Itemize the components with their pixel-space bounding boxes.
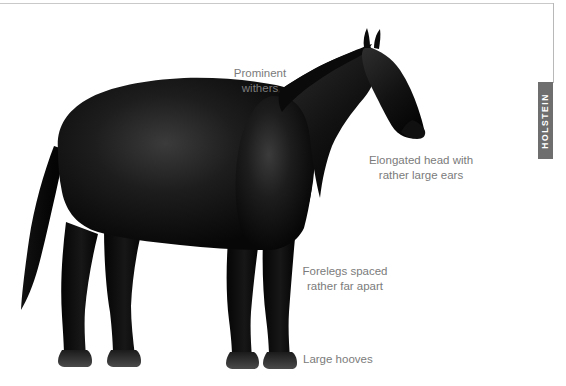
horse-ear-far bbox=[364, 28, 370, 48]
page-canvas: Prominent withers Elongated head with ra… bbox=[0, 0, 566, 386]
callout-hooves-line1: Large hooves bbox=[303, 352, 373, 367]
horse-foreleg-far bbox=[227, 240, 259, 358]
section-tab-label: HOLSTEIN bbox=[538, 93, 553, 149]
section-tab-holstein[interactable]: HOLSTEIN bbox=[538, 82, 553, 159]
callout-forelegs: Forelegs spaced rather far apart bbox=[290, 264, 400, 294]
horse-hind-leg-far bbox=[61, 222, 98, 356]
horse-ear-near bbox=[374, 29, 380, 49]
callout-withers-line1: Prominent bbox=[205, 66, 315, 81]
horse-hoof-hind-near bbox=[107, 350, 141, 367]
horse-hoof-fore-far bbox=[226, 352, 259, 369]
callout-withers-line2: withers bbox=[205, 81, 315, 96]
callout-head-line1: Elongated head with bbox=[363, 153, 479, 168]
callout-head-line2: rather large ears bbox=[363, 168, 479, 183]
horse-foreleg-near bbox=[263, 238, 295, 358]
callout-forelegs-line1: Forelegs spaced bbox=[290, 264, 400, 279]
horse-hoof-fore-near bbox=[263, 352, 297, 369]
callout-forelegs-line2: rather far apart bbox=[290, 279, 400, 294]
horse-hoof-hind-far bbox=[58, 350, 92, 367]
horse-hind-leg-near bbox=[104, 228, 142, 356]
callout-head: Elongated head with rather large ears bbox=[363, 153, 479, 183]
horse-illustration bbox=[0, 0, 566, 386]
callout-withers: Prominent withers bbox=[205, 66, 315, 96]
callout-hooves: Large hooves bbox=[303, 352, 373, 367]
